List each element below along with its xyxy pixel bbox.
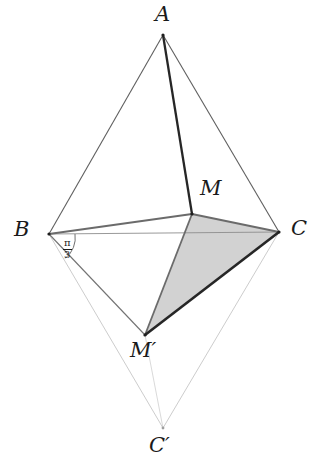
vertex-label-A: A — [155, 4, 170, 25]
vertex-label-M-prime: M′ — [130, 340, 156, 361]
vertex-dot-Mprime — [143, 333, 146, 336]
vertex-dot-A — [161, 33, 164, 36]
vertex-dot-B — [47, 232, 50, 235]
angle-numerator: π — [63, 238, 72, 250]
vertex-dot-M — [190, 212, 193, 215]
edge-A-C — [163, 35, 279, 232]
geometry-canvas — [0, 0, 315, 468]
vertex-dot-Cprime — [162, 427, 165, 430]
angle-denominator: 3 — [63, 250, 72, 261]
vertex-label-B: B — [14, 219, 29, 240]
edge-A-M — [163, 35, 192, 214]
geometry-figure: A B C M M′ C′ π 3 — [0, 0, 315, 468]
vertex-label-C: C — [291, 218, 307, 239]
vertex-label-M: M — [200, 178, 222, 199]
angle-label-pi-over-3: π 3 — [63, 238, 72, 260]
vertex-label-C-prime: C′ — [149, 435, 170, 456]
vertex-dot-C — [277, 230, 280, 233]
edge-B-M — [49, 214, 192, 234]
edge-A-B — [49, 35, 163, 234]
